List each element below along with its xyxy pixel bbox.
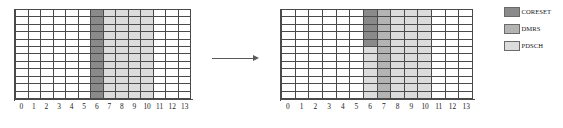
grid-cell-empty (432, 62, 446, 69)
grid-cell-empty (54, 32, 67, 39)
grid-cell-empty (166, 47, 179, 54)
grid-cell-empty (179, 62, 192, 69)
grid-cell-pdsch (129, 40, 142, 47)
grid-cell-empty (432, 25, 446, 32)
grid-cell-empty (309, 84, 323, 91)
grid-cell-empty (154, 54, 167, 61)
grid-cell-empty (79, 69, 92, 76)
grid-cell-coreset (364, 25, 378, 32)
grid-cell-pdsch (418, 47, 432, 54)
grid-cell-pdsch (391, 47, 405, 54)
grid-cell-pdsch (129, 10, 142, 17)
grid-cell-pdsch (405, 84, 419, 91)
grid-cell-empty (350, 92, 364, 99)
grid-cell-empty (432, 69, 446, 76)
grid-cell-pdsch (418, 69, 432, 76)
grid-cell-empty (323, 84, 337, 91)
grid-cell-empty (296, 54, 310, 61)
grid-cell-empty (41, 69, 54, 76)
grid-cell-pdsch (141, 47, 154, 54)
figure-canvas: 012345678910111213 012345678910111213 CO… (0, 0, 563, 128)
grid-cell-empty (41, 92, 54, 99)
grid-cell-empty (29, 62, 42, 69)
grid-cell-empty (54, 77, 67, 84)
grid-cell-empty (337, 10, 351, 17)
grid-cell-empty (350, 54, 364, 61)
grid-cell-empty (446, 77, 460, 84)
grid-cell-coreset (91, 69, 104, 76)
grid-cell-empty (350, 77, 364, 84)
grid-cell-coreset (364, 40, 378, 47)
grid-cell-pdsch (405, 32, 419, 39)
grid-cell-dmrs (378, 84, 392, 91)
grid-cell-empty (337, 47, 351, 54)
grid-cell-empty (16, 17, 29, 24)
grid-cell-empty (432, 92, 446, 99)
grid-cell-empty (79, 77, 92, 84)
grid-cell-empty (166, 40, 179, 47)
grid-cell-empty (432, 10, 446, 17)
x-axis-before (15, 99, 193, 100)
grid-cell-empty (79, 62, 92, 69)
grid-cell-coreset (364, 17, 378, 24)
grid-cell-empty (446, 25, 460, 32)
grid-cell-empty (337, 25, 351, 32)
grid-cell-empty (350, 40, 364, 47)
grid-cell-pdsch (418, 25, 432, 32)
grid-cell-empty (179, 92, 192, 99)
grid-cell-pdsch (418, 92, 432, 99)
grid-cell-pdsch (364, 84, 378, 91)
x-tick-label: 6 (363, 102, 377, 111)
grid-cell-empty (66, 47, 79, 54)
grid-cell-empty (66, 17, 79, 24)
grid-cell-empty (179, 32, 192, 39)
grid-cell-empty (166, 62, 179, 69)
grid-cell-pdsch (129, 47, 142, 54)
grid-cell-empty (41, 32, 54, 39)
grid-cell-empty (79, 10, 92, 17)
grid-cell-empty (154, 77, 167, 84)
legend-item: PDSCH (504, 41, 543, 51)
resource-grid-before (15, 9, 191, 99)
grid-cell-pdsch (116, 77, 129, 84)
grid-cell-pdsch (418, 32, 432, 39)
grid-cell-empty (350, 47, 364, 54)
grid-cell-pdsch (364, 92, 378, 99)
x-tick-label: 1 (295, 102, 309, 111)
grid-cell-pdsch (141, 32, 154, 39)
grid-cell-empty (323, 25, 337, 32)
grid-cell-pdsch (116, 92, 129, 99)
grid-cell-pdsch (129, 54, 142, 61)
grid-cell-empty (166, 32, 179, 39)
transform-arrow (212, 52, 260, 64)
grid-cell-empty (54, 92, 67, 99)
grid-cell-empty (282, 92, 296, 99)
grid-cell-empty (179, 84, 192, 91)
grid-cell-empty (29, 47, 42, 54)
grid-cell-pdsch (418, 84, 432, 91)
grid-cell-empty (179, 17, 192, 24)
grid-cell-pdsch (405, 25, 419, 32)
grid-cell-dmrs (378, 54, 392, 61)
legend-swatch-dmrs (504, 24, 520, 34)
grid-cell-pdsch (141, 54, 154, 61)
grid-cell-pdsch (391, 92, 405, 99)
x-tick-label: 12 (445, 102, 459, 111)
grid-cell-empty (432, 32, 446, 39)
grid-cell-empty (154, 69, 167, 76)
grid-cell-pdsch (364, 69, 378, 76)
grid-cell-pdsch (104, 62, 117, 69)
grid-cell-empty (41, 54, 54, 61)
grid-cell-empty (446, 69, 460, 76)
grid-cell-empty (459, 77, 473, 84)
grid-cell-empty (459, 32, 473, 39)
grid-cell-pdsch (391, 77, 405, 84)
grid-cell-dmrs (378, 69, 392, 76)
grid-cell-empty (41, 17, 54, 24)
grid-cell-empty (154, 47, 167, 54)
grid-cell-empty (66, 92, 79, 99)
grid-cell-pdsch (116, 62, 129, 69)
grid-cell-pdsch (364, 77, 378, 84)
grid-cell-empty (296, 77, 310, 84)
grid-cell-empty (323, 69, 337, 76)
